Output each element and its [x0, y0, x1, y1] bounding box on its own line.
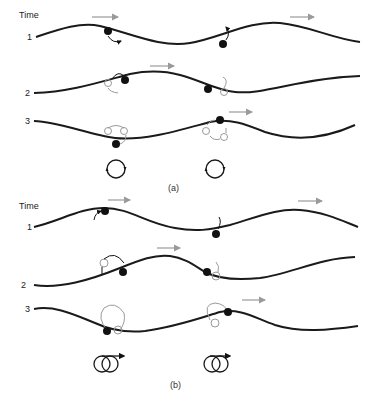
particle — [216, 116, 224, 124]
particle — [121, 76, 129, 84]
motion-arrow-icon — [108, 88, 118, 93]
caption-b: (b) — [170, 381, 181, 390]
panel-b — [34, 200, 358, 372]
ghost-particle — [121, 128, 128, 135]
row-label-a-2: 2 — [25, 89, 30, 98]
ghost-particle — [203, 128, 210, 135]
looping-orbit-icon — [204, 356, 230, 372]
particle — [101, 207, 109, 215]
time-label-a: Time — [19, 11, 39, 20]
particle — [103, 327, 111, 335]
particle — [104, 27, 112, 35]
row-label-a-3: 3 — [25, 117, 30, 126]
particle — [212, 230, 220, 238]
looping-orbit-icon — [94, 356, 124, 372]
row-label-b-3: 3 — [25, 305, 30, 314]
circular-orbit-icon — [206, 160, 224, 178]
row-label-a-1: 1 — [27, 33, 32, 42]
motion-arrow-icon — [223, 77, 226, 88]
wave-particle-diagram — [0, 0, 374, 395]
caption-a: (a) — [168, 184, 179, 193]
ghost-particle — [221, 134, 228, 141]
particle — [219, 40, 227, 48]
row-label-b-1: 1 — [27, 223, 32, 232]
ghost-particle — [105, 128, 112, 135]
time-label-b: Time — [19, 202, 39, 211]
ghost-particle — [100, 259, 108, 267]
ghost-particle — [211, 319, 219, 327]
particle — [224, 308, 232, 316]
wave-row-1 — [36, 23, 360, 44]
particle — [119, 268, 127, 276]
motion-arrow-icon — [216, 262, 219, 272]
wave-row-2 — [34, 71, 360, 93]
wave-row-3 — [34, 308, 358, 332]
motion-arrow-icon — [108, 36, 121, 42]
circular-orbit-icon — [107, 160, 125, 178]
particle — [112, 140, 120, 148]
particle — [204, 85, 212, 93]
wave-row-3 — [34, 121, 355, 139]
panel-a — [34, 17, 360, 178]
wave-row-2 — [34, 256, 355, 286]
particle — [203, 268, 211, 276]
motion-arrow-icon — [94, 211, 101, 220]
wave-row-1 — [34, 208, 358, 230]
row-label-b-2: 2 — [21, 281, 26, 290]
